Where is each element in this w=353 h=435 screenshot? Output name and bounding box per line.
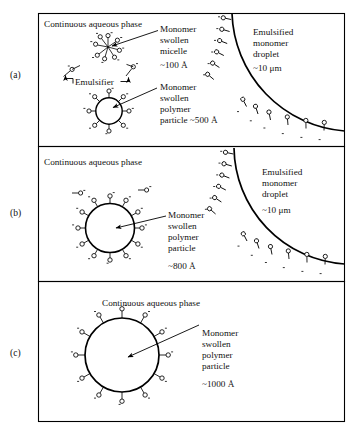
panel-c-phase-label: Continuous aqueous phase bbox=[102, 298, 200, 309]
panel-label-c: (c) bbox=[10, 348, 21, 358]
particle-b-label-line2: swollen bbox=[168, 221, 197, 232]
free-emulsifier-right bbox=[126, 64, 138, 76]
particle-c-label-line1: Monomer bbox=[202, 328, 238, 339]
particle-c-label-line3: polymer bbox=[202, 350, 233, 361]
particle-b-label-line3: polymer bbox=[168, 232, 199, 243]
droplet-a-label-line2: monomer bbox=[253, 38, 288, 49]
droplet-b-label-line2: monomer bbox=[262, 178, 297, 189]
particle-b-label-line1: Monomer bbox=[168, 210, 204, 221]
droplet-a-label-line3: droplet bbox=[253, 49, 279, 60]
free-emulsifier-b1 bbox=[72, 190, 85, 195]
droplet-b-size-label: ~10 μm bbox=[262, 205, 291, 216]
polymer-particle-a-leader bbox=[113, 88, 157, 108]
polymer-particle-c bbox=[71, 305, 173, 404]
droplet-a-label-line1: Emulsified bbox=[253, 27, 293, 38]
polymer-particle-b bbox=[72, 193, 147, 264]
micelle-size-label: ~100 Å bbox=[160, 60, 188, 71]
micelle-label-line1: Monomer bbox=[160, 24, 196, 35]
panel-a-phase-label: Continuous aqueous phase bbox=[44, 19, 142, 30]
panel-c-content bbox=[71, 305, 199, 404]
particle-c-label-line4: particle bbox=[202, 361, 230, 372]
free-emulsifier-b2 bbox=[138, 187, 151, 192]
droplet-b-label-line3: droplet bbox=[262, 189, 288, 200]
polymer-particle-a bbox=[83, 88, 133, 133]
emulsion-polymerization-figure: (a) (b) (c) Continuous aqueous phase Mon… bbox=[0, 0, 353, 435]
emulsifier-label: Emulsifier bbox=[75, 77, 114, 88]
particle-b-size-label: ~800 Å bbox=[168, 261, 196, 272]
particle-c-label-line2: swollen bbox=[202, 339, 231, 350]
micelle-glyph bbox=[90, 33, 124, 63]
particle-a-size-label: particle ~500 Å bbox=[160, 115, 218, 126]
particle-b-label-line4: particle bbox=[168, 243, 196, 254]
panel-label-b: (b) bbox=[10, 208, 21, 218]
particle-c-size-label: ~1000 Å bbox=[202, 379, 234, 390]
droplet-b-label-line1: Emulsified bbox=[262, 167, 302, 178]
droplet-a-size-label: ~10 μm bbox=[253, 63, 282, 74]
micelle-label-line3: micelle bbox=[160, 46, 187, 57]
panel-b-phase-label: Continuous aqueous phase bbox=[44, 157, 142, 168]
particle-a-label-line2: swollen bbox=[160, 93, 189, 104]
panel-label-a: (a) bbox=[10, 70, 21, 80]
particle-a-label-line3: polymer bbox=[160, 104, 191, 115]
free-emulsifier-left bbox=[64, 66, 81, 77]
micelle-label-line2: swollen bbox=[160, 35, 189, 46]
particle-a-label-line1: Monomer bbox=[160, 82, 196, 93]
